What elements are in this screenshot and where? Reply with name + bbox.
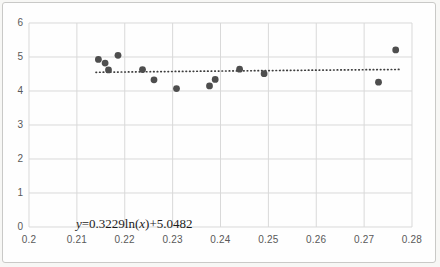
trendline-equation-label: y=0.3229ln(x)+5.0482: [76, 216, 193, 232]
data-point: [212, 76, 219, 83]
equation-text-part: =0.3229ln(: [82, 216, 140, 231]
y-tick-label: 6: [3, 17, 23, 28]
y-tick-label: 5: [3, 51, 23, 62]
data-point: [151, 76, 158, 83]
plot-area: y=0.3229ln(x)+5.0482: [29, 23, 412, 227]
plot-area-svg: [29, 23, 412, 227]
x-tick-label: 0.22: [103, 234, 147, 245]
y-tick-label: 2: [3, 153, 23, 164]
x-tick-label: 0.24: [199, 234, 243, 245]
y-tick-label: 0: [3, 221, 23, 232]
data-point: [261, 70, 268, 77]
y-tick-label: 3: [3, 119, 23, 130]
y-tick-label: 4: [3, 85, 23, 96]
data-point: [95, 56, 102, 63]
equation-text-part: )+5.0482: [145, 216, 192, 231]
data-point: [236, 66, 243, 73]
y-tick-label: 1: [3, 187, 23, 198]
x-tick-label: 0.27: [342, 234, 386, 245]
data-point: [173, 85, 180, 92]
data-point: [102, 60, 109, 67]
x-tick-label: 0.23: [151, 234, 195, 245]
x-tick-label: 0.28: [390, 234, 434, 245]
data-point: [115, 52, 122, 59]
data-point: [392, 47, 399, 54]
x-tick-label: 0.2: [7, 234, 51, 245]
x-tick-label: 0.21: [55, 234, 99, 245]
data-point: [206, 83, 213, 90]
data-point: [139, 66, 146, 73]
x-tick-label: 0.26: [294, 234, 338, 245]
data-point: [375, 79, 382, 86]
x-tick-label: 0.25: [246, 234, 290, 245]
data-point: [105, 67, 112, 74]
chart-frame: y=0.3229ln(x)+5.0482 0.20.210.220.230.24…: [2, 2, 436, 263]
